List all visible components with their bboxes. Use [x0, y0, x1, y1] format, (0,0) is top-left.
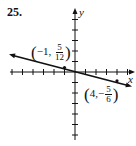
point-label-2: (4,−56): [84, 85, 118, 104]
coordinate-graph: [0, 0, 136, 146]
point-label-1: (−1, 512): [31, 43, 71, 62]
line-arrow-left-icon: [9, 54, 16, 59]
point-marker: [115, 79, 118, 82]
y-axis-arrow-icon: [73, 8, 78, 14]
y-axis-label: y: [79, 6, 84, 18]
x-axis-label: x: [128, 73, 133, 85]
point-marker: [63, 66, 66, 69]
